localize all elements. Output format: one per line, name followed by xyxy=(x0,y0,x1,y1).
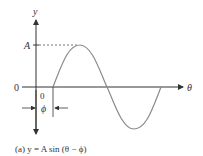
x-axis-label: θ xyxy=(187,82,192,93)
sine-phase-diagram: y A 0 0 ϕ θ (a) y = A sin (θ − ϕ) xyxy=(0,0,203,156)
caption: (a) y = A sin (θ − ϕ) xyxy=(15,144,86,154)
amplitude-label: A xyxy=(23,40,31,51)
phase-label: ϕ xyxy=(41,103,46,114)
origin-label-left: 0 xyxy=(14,82,19,93)
origin-label-below: 0 xyxy=(40,91,45,101)
y-axis-label: y xyxy=(32,6,38,17)
